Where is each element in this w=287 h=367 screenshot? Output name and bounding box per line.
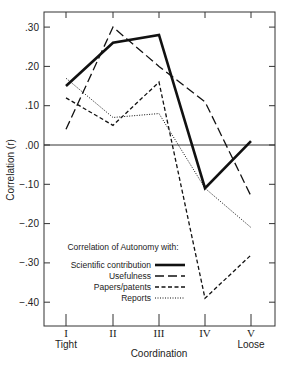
x-tick-label: V [247, 327, 255, 339]
y-tick-label: .10 [25, 100, 39, 111]
y-tick-label: −.10 [19, 179, 39, 190]
y-tick-label: −.30 [19, 257, 39, 268]
y-tick-label: .00 [25, 140, 39, 151]
y-tick-label: −.40 [19, 297, 39, 308]
legend-label: Papers/patents [94, 282, 151, 292]
y-axis-title: Correlation (r) [5, 139, 16, 201]
data-series [66, 27, 251, 298]
y-tick-label: .20 [25, 61, 39, 72]
x-tick-sublabel: Loose [237, 339, 265, 350]
plot-frame [44, 12, 275, 326]
y-tick-label: −.20 [19, 218, 39, 229]
series-line [66, 78, 251, 227]
y-tick-label: .30 [25, 22, 39, 33]
line-chart: .30.20.10.00−.10−.20−.30−.40 ITightIIIII… [0, 0, 287, 367]
x-axis-title: Coordination [131, 348, 188, 359]
x-tick-label: II [109, 327, 117, 339]
x-axis-ticks: ITightIIIIIIVVLoose [55, 12, 265, 350]
plot-border [44, 12, 275, 326]
x-tick-label: I [64, 327, 68, 339]
legend-title: Correlation of Autonomy with: [67, 242, 178, 252]
series-line [66, 35, 251, 188]
x-tick-label: III [154, 327, 165, 339]
legend-label: Usefulness [109, 271, 151, 281]
legend-label: Scientific contribution [71, 260, 152, 270]
legend: Correlation of Autonomy with:Scientific … [67, 242, 185, 303]
x-tick-sublabel: Tight [55, 339, 77, 350]
legend-label: Reports [121, 293, 151, 303]
x-tick-label: IV [199, 327, 211, 339]
